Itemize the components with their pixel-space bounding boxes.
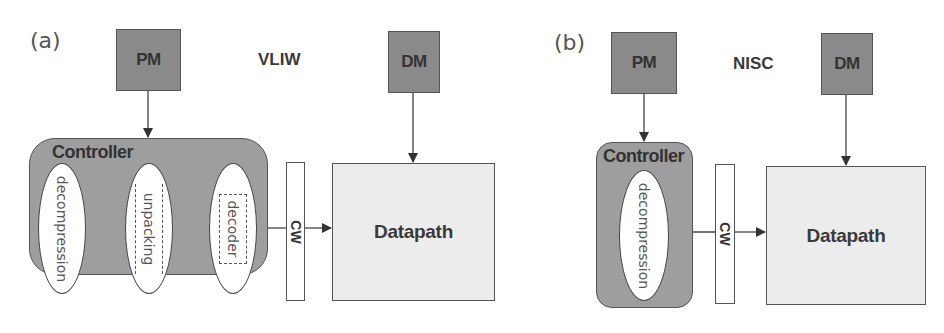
program-memory-block: PM: [611, 32, 677, 94]
decoder-label: decoder: [225, 200, 241, 257]
control-word-label: CW: [717, 222, 733, 245]
program-memory-block: PM: [116, 29, 181, 91]
program-memory-label: PM: [136, 50, 161, 70]
data-memory-block: DM: [388, 31, 440, 93]
control-word-register: CW: [715, 164, 735, 304]
control-word-register: CW: [286, 162, 305, 301]
data-memory-label: DM: [834, 54, 859, 74]
decoder-stage: decoder: [209, 163, 257, 294]
decompression-stage: decompression: [38, 163, 86, 294]
data-memory-block: DM: [821, 33, 873, 95]
controller-label: Controller: [603, 146, 684, 167]
decompression-stage: decompression: [619, 170, 669, 301]
program-memory-label: PM: [632, 53, 657, 73]
architecture-title: NISC: [733, 54, 774, 74]
controller-label: Controller: [52, 142, 133, 163]
unpacking-stage: unpacking: [125, 163, 173, 294]
datapath-label: Datapath: [807, 225, 886, 247]
panel-b-label: (b): [554, 30, 585, 55]
decompression-label: decompression: [54, 175, 70, 281]
architecture-title: VLIW: [258, 50, 301, 70]
datapath-label: Datapath: [374, 221, 453, 243]
decompression-label: decompression: [636, 182, 652, 288]
data-memory-label: DM: [401, 52, 426, 72]
control-word-label: CW: [288, 220, 304, 243]
datapath-block: Datapath: [332, 163, 495, 301]
datapath-block: Datapath: [766, 166, 926, 305]
panel-a-label: (a): [30, 28, 61, 53]
unpacking-label: unpacking: [141, 192, 157, 265]
